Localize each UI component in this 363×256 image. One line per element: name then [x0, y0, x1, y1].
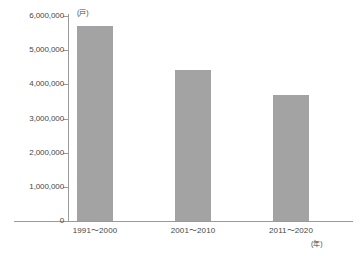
bar-2011-2020 [273, 95, 309, 221]
y-tick-label: 6,000,000 [29, 12, 64, 20]
plot-area: 6,000,000 5,000,000 4,000,000 3,000,000 … [68, 16, 353, 221]
y-tick-label: 1,000,000 [29, 183, 64, 191]
y-tick-label: 4,000,000 [29, 80, 64, 88]
bar-2001-2010 [175, 70, 211, 221]
y-axis-unit-label: (戸) [77, 9, 89, 16]
bar-chart: (戸) (年) 6,000,000 5,000,000 4,000,000 3,… [0, 0, 363, 256]
y-tick-label: 5,000,000 [29, 46, 64, 54]
bar-1991-2000 [77, 26, 113, 221]
x-label-2001-2010: 2001〜2010 [145, 227, 241, 235]
x-axis-unit-label: (年) [311, 240, 323, 247]
y-tick-label: 2,000,000 [29, 149, 64, 157]
x-label-2011-2020: 2011〜2020 [243, 227, 339, 235]
y-tick-label: 0 [60, 217, 64, 225]
x-label-1991-2000: 1991〜2000 [47, 227, 143, 235]
y-tick-label: 3,000,000 [29, 115, 64, 123]
